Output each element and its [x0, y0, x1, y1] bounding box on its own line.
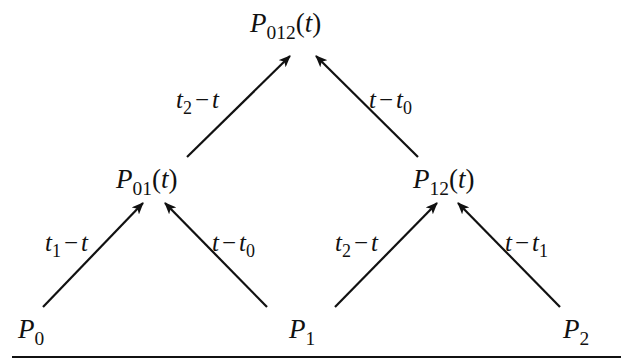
- edges-layer: [0, 0, 621, 362]
- node-subscript: 012: [267, 22, 296, 43]
- edge-label-mid-left-root: t2−t: [176, 87, 219, 117]
- node-subscript: 2: [580, 328, 590, 349]
- node-symbol: P: [289, 314, 306, 344]
- edge-label-mid-right-root: t−t0: [369, 87, 412, 117]
- node-leaf-1: P1: [289, 316, 315, 348]
- node-subscript: 12: [430, 178, 449, 199]
- node-subscript: 0: [35, 328, 45, 349]
- neville-tree-diagram: P012(t) P01(t) P12(t) P0 P1 P2 t2−t t−t0…: [0, 0, 621, 362]
- node-symbol: P: [250, 8, 267, 38]
- node-mid-right: P12(t): [413, 166, 474, 198]
- node-subscript: 1: [306, 328, 316, 349]
- node-subscript: 01: [133, 178, 152, 199]
- node-leaf-2: P2: [563, 316, 589, 348]
- node-root: P012(t): [250, 10, 321, 42]
- edge-label-leaf0-mid-left: t1−t: [45, 230, 88, 260]
- node-mid-left: P01(t): [116, 166, 177, 198]
- edge-label-leaf1-mid-right: t2−t: [335, 230, 378, 260]
- edge-label-leaf1-mid-left: t−t0: [212, 230, 255, 260]
- node-symbol: P: [413, 164, 430, 194]
- node-leaf-0: P0: [18, 316, 44, 348]
- node-symbol: P: [18, 314, 35, 344]
- node-symbol: P: [563, 314, 580, 344]
- node-symbol: P: [116, 164, 133, 194]
- edge-label-leaf2-mid-right: t−t1: [505, 230, 548, 260]
